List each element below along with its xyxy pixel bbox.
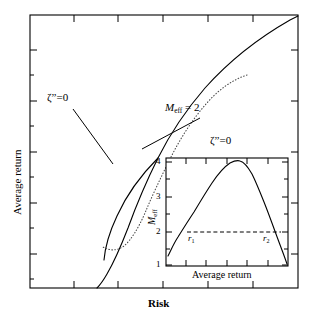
meff-equals-two-label: Meff = 2: [165, 102, 200, 114]
inset-y-title-m: M: [146, 217, 157, 225]
inset-r1-label: r1: [188, 234, 195, 244]
main-y-axis-title: Average return: [12, 150, 23, 215]
figure-container: Average return Risk ζ”=0 Meff = 2 ζ”=0 4…: [0, 0, 318, 324]
inset-y-axis-title: Meff: [147, 209, 158, 225]
main-x-axis-title: Risk: [148, 298, 169, 309]
meff-leader-line: [142, 118, 200, 149]
meff-label-value: = 2: [182, 101, 199, 113]
r1-sub: 1: [192, 238, 195, 244]
inset-ytick-1: 1: [156, 260, 161, 269]
zeta-double-prime-label: ζ”=0: [47, 92, 68, 103]
inset-ytick-3: 3: [156, 192, 161, 201]
inset-y-title-sub: eff: [151, 209, 158, 216]
inset-frame-rect: [166, 158, 288, 266]
zeta-leader-line: [73, 109, 113, 164]
inset-r2-label: r2: [263, 234, 270, 244]
inset-title: ζ”=0: [210, 135, 231, 146]
inset-plot: [166, 158, 288, 266]
inset-ytick-2: 2: [156, 227, 161, 236]
meff-label-m: M: [165, 101, 174, 113]
inset-ytick-4: 4: [156, 157, 161, 166]
r2-sub: 2: [267, 238, 270, 244]
inset-x-axis-title: Average return: [192, 270, 252, 280]
